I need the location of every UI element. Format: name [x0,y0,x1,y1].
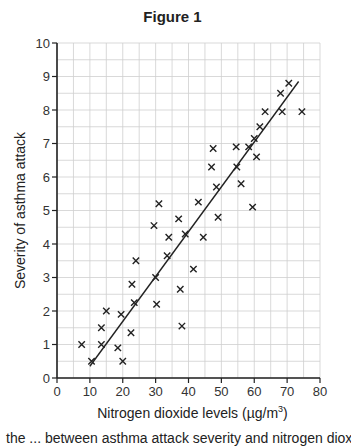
x-tick-label: 60 [247,384,261,399]
data-point-x-marker [200,234,206,240]
x-tick-label: 0 [53,384,60,399]
data-point-x-marker [215,214,221,220]
line-of-best-fit [90,82,299,367]
data-point-x-marker [279,108,285,114]
y-tick-label: 0 [43,371,50,386]
y-tick-label: 3 [43,270,50,285]
y-tick-label: 6 [43,170,50,185]
data-point-x-marker [249,204,255,210]
data-point-x-marker [299,108,305,114]
data-point-x-marker [210,145,216,151]
x-tick-label: 30 [148,384,162,399]
data-point-x-marker [175,216,181,222]
data-point-x-marker [115,345,121,351]
y-tick-label: 8 [43,103,50,118]
y-tick-label: 9 [43,69,50,84]
caption-partial: the ... between asthma attack severity a… [0,430,351,446]
data-point-x-marker [208,164,214,170]
y-tick-label: 10 [36,36,50,51]
y-axis-label: Severity of asthma attack [12,131,28,289]
x-tick-label: 70 [280,384,294,399]
y-tick-label: 1 [43,337,50,352]
x-tick-label: 40 [181,384,195,399]
data-point-x-marker [238,181,244,187]
x-tick-label: 80 [313,384,327,399]
x-tick-label: 50 [214,384,228,399]
y-tick-label: 2 [43,304,50,319]
data-point-x-marker [179,323,185,329]
data-point-x-marker [166,234,172,240]
data-point-x-marker [118,311,124,317]
data-point-x-marker [195,199,201,205]
y-tick-label: 5 [43,203,50,218]
x-axis-label: Nitrogen dioxide levels (µg/m3) [97,404,288,421]
y-tick-label: 4 [43,237,50,252]
y-tick-label: 7 [43,136,50,151]
data-point-x-marker [151,222,157,228]
data-point-x-marker [128,330,134,336]
data-point-x-marker [262,108,268,114]
data-point-x-marker [190,266,196,272]
data-point-x-marker [156,201,162,207]
data-point-x-marker [286,80,292,86]
data-point-x-marker [177,286,183,292]
data-point-x-marker [129,281,135,287]
x-tick-label: 10 [83,384,97,399]
x-tick-label: 20 [116,384,130,399]
data-point-x-marker [233,144,239,150]
data-point-x-marker [153,301,159,307]
data-point-x-marker [164,253,170,259]
data-point-x-marker [213,184,219,190]
